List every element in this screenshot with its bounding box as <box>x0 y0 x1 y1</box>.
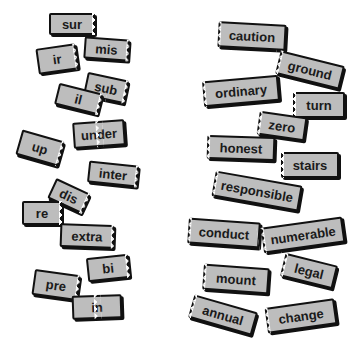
root-tag-conduct: conduct <box>187 218 261 249</box>
prefix-tag-under: under <box>72 119 126 149</box>
root-tag-legal: legal <box>280 253 338 289</box>
root-tag-annual: annual <box>188 294 258 335</box>
root-tag-caution: caution <box>217 21 286 51</box>
root-tag-turn: turn <box>293 92 345 118</box>
prefix-tag-sur: sur <box>49 13 95 35</box>
prefix-tag-inter: inter <box>87 160 139 187</box>
root-tag-stairs: stairs <box>281 152 339 178</box>
root-tag-change: change <box>265 298 338 333</box>
prefix-tag-bi: bi <box>86 254 130 282</box>
root-tag-mount: mount <box>202 264 270 295</box>
root-tag-honest: honest <box>207 135 276 161</box>
prefix-tag-extra: extra <box>60 223 115 249</box>
root-tag-ordinary: ordinary <box>202 75 280 108</box>
prefix-tag-up: up <box>15 129 64 166</box>
prefix-tag-re: re <box>22 201 62 225</box>
root-tag-ground: ground <box>275 50 345 89</box>
prefix-tag-mis: mis <box>83 36 129 61</box>
root-tag-numerable: numerable <box>261 216 346 253</box>
prefix-tag-ir: ir <box>35 43 78 74</box>
prefix-tag-in: in <box>72 294 123 320</box>
